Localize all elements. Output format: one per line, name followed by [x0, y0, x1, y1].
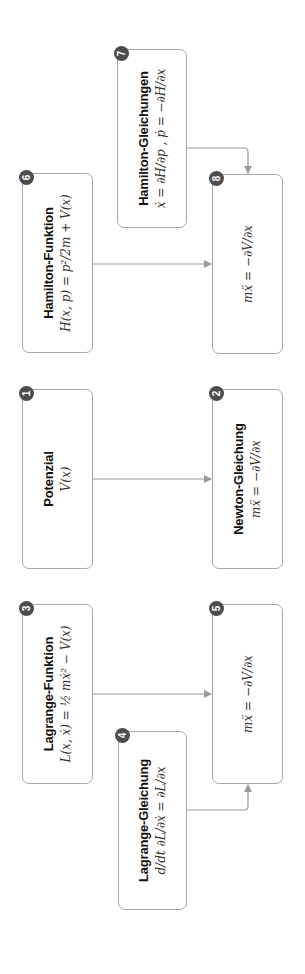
badge-2: 2 [209, 386, 224, 401]
badge-7: 7 [114, 46, 129, 61]
node-hamilton-funktion: Hamilton-Funktion H(x, p) = p²/2m + V(x)… [22, 173, 93, 353]
badge-3: 3 [19, 601, 34, 616]
badge-5: 5 [209, 601, 224, 616]
node-formula: H(x, p) = p²/2m + V(x) [59, 194, 74, 332]
node-lagrange-gleichung: Lagrange-Gleichung d/dt ∂L/∂ẋ = ∂L/∂x 4 [118, 731, 187, 910]
node-lagrange-funktion: Lagrange-Funktion L(x, ẋ) = ½ mẋ² − V(x)… [22, 604, 93, 784]
badge-8: 8 [209, 171, 224, 186]
node-potenzial: Potenzial V(x) 1 [22, 389, 93, 569]
node-formula: ẋ = ∂H/∂p , ṗ = −∂H/∂x [154, 69, 169, 209]
badge-4: 4 [115, 728, 130, 743]
diagram-canvas: Lagrange-Funktion L(x, ẋ) = ½ mẋ² − V(x)… [0, 0, 305, 974]
node-formula: mẍ = −∂V/∂x [241, 225, 256, 303]
node-formula: L(x, ẋ) = ½ mẋ² − V(x) [59, 625, 74, 762]
node-title: Newton-Gleichung [231, 423, 247, 535]
node-newton-gleichung: Newton-Gleichung mẍ = −∂V/∂x 2 [212, 389, 283, 569]
node-title: Lagrange-Funktion [41, 637, 57, 751]
diagram-viewport: Lagrange-Funktion L(x, ẋ) = ½ mẋ² − V(x)… [0, 0, 305, 974]
node-formula: mẍ = −∂V/∂x [249, 440, 264, 518]
node-hamilton-gleichungen: Hamilton-Gleichungen ẋ = ∂H/∂p , ṗ = −∂H… [117, 49, 187, 228]
node-title: Hamilton-Funktion [41, 207, 57, 318]
badge-6: 6 [19, 170, 34, 185]
badge-1: 1 [19, 386, 34, 401]
node-result-lagrange: mẍ = −∂V/∂x 5 [212, 604, 283, 784]
node-formula: d/dt ∂L/∂ẋ = ∂L/∂x [154, 766, 169, 874]
node-title: Hamilton-Gleichungen [136, 71, 152, 206]
node-formula: V(x) [59, 467, 74, 492]
node-title: Potenzial [41, 451, 57, 506]
node-formula: mẍ = −∂V/∂x [241, 655, 256, 733]
node-title: Lagrange-Gleichung [136, 759, 152, 882]
node-result-hamilton: mẍ = −∂V/∂x 8 [212, 174, 283, 354]
